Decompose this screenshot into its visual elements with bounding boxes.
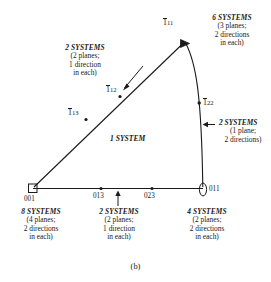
marker-023-dot xyxy=(150,187,153,190)
pole-label-1bar12: 112 xyxy=(106,85,117,95)
marker-013-dot xyxy=(99,187,102,190)
annotation-bottom-right-line3: in each) xyxy=(168,233,246,241)
annotation-top-left: 2 SYSTEMS (2 planes; 1 direction in each… xyxy=(46,44,124,77)
marker-1bar13-dot xyxy=(84,118,87,121)
pole-rest-1bar22: 22 xyxy=(207,99,214,106)
marker-1bar12-dot xyxy=(118,95,121,98)
pole-rest-1bar13: 13 xyxy=(72,109,79,116)
edge-1bar11-011 xyxy=(186,43,203,187)
annotation-bottom-center-line3: in each) xyxy=(81,233,157,241)
region-label-1-system: 1 SYSTEM xyxy=(110,135,145,144)
annotation-right-line2: 2 directions) xyxy=(215,136,271,144)
leader-arrow-top-left xyxy=(123,66,143,91)
annotation-bottom-left-line3: in each) xyxy=(2,233,80,241)
pole-label-001: 001 xyxy=(24,195,35,203)
annotation-top-right-line3: in each) xyxy=(194,39,270,47)
pole-label-1bar11: 111 xyxy=(163,18,173,28)
tick-label-013: 013 xyxy=(93,192,104,200)
annotation-bottom-center: 2 SYSTEMS (2 planes; 1 direction in each… xyxy=(81,208,157,241)
annotation-top-left-line3: in each) xyxy=(46,69,124,77)
marker-1bar22-dot xyxy=(198,101,201,104)
pole-rest-1bar12: 12 xyxy=(110,86,117,93)
pole-label-1bar13: 113 xyxy=(68,108,79,118)
leader-arrow-bottom-center xyxy=(115,191,120,207)
annotation-top-right: 6 SYSTEMS (3 planes; 2 directions in eac… xyxy=(194,14,270,47)
pole-label-1bar22: 122 xyxy=(203,98,214,108)
pole-label-011: 011 xyxy=(209,185,220,193)
stereographic-triangle-figure: 111 112 113 122 001 011 013 023 1 SYSTEM… xyxy=(0,0,271,282)
figure-caption: (b) xyxy=(0,262,271,271)
annotation-right: 2 SYSTEMS (1 plane; 2 directions) xyxy=(219,119,271,144)
marker-1bar11-triangle xyxy=(181,40,190,48)
leader-arrow-right xyxy=(203,122,216,127)
annotation-bottom-right: 4 SYSTEMS (2 planes; 2 directions in eac… xyxy=(168,208,246,241)
annotation-bottom-left: 8 SYSTEMS (4 planes; 2 directions in eac… xyxy=(2,208,80,241)
tick-label-023: 023 xyxy=(144,192,155,200)
pole-rest-1bar11: 11 xyxy=(167,19,173,26)
